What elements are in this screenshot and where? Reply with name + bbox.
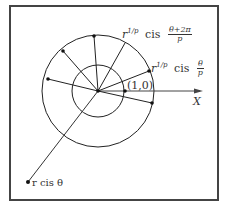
label-root-k0: r1/p cis θp bbox=[151, 60, 204, 77]
label-root-k1: r1/p cis θ+2πp bbox=[122, 26, 192, 43]
label-x-axis: X bbox=[193, 96, 201, 107]
fraction: θ+2πp bbox=[168, 26, 192, 43]
origin-point bbox=[96, 89, 100, 93]
root-point bbox=[150, 101, 154, 105]
root-point bbox=[46, 77, 50, 81]
label-cis: cis bbox=[174, 62, 189, 75]
fraction: θp bbox=[197, 60, 204, 77]
x-axis-arrow-icon bbox=[194, 89, 203, 94]
label-exponent: 1/p bbox=[156, 61, 167, 69]
original-ray bbox=[28, 91, 98, 182]
fraction-denominator: p bbox=[197, 69, 204, 77]
root-ray bbox=[48, 79, 98, 91]
original-point bbox=[26, 180, 30, 184]
label-unit-point: (1,0) bbox=[127, 80, 153, 91]
root-ray bbox=[98, 91, 152, 103]
root-point bbox=[61, 49, 65, 53]
root-point bbox=[92, 34, 96, 38]
label-original-point: r cis θ bbox=[32, 178, 63, 188]
root-ray bbox=[63, 51, 98, 91]
fraction-denominator: p bbox=[168, 35, 192, 43]
root-ray bbox=[94, 36, 98, 91]
label-cis: cis bbox=[145, 28, 160, 41]
label-exponent: 1/p bbox=[127, 27, 138, 35]
root-ray-k1 bbox=[98, 43, 125, 91]
